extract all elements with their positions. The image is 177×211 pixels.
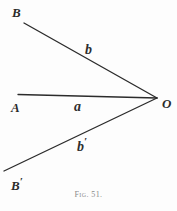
segment-label-b: b [85, 43, 92, 57]
point-label-O: O [162, 97, 171, 110]
segment-label-b-prime-mark: ′ [84, 135, 87, 147]
segment-label-a: a [74, 100, 81, 114]
angle-diagram-svg [0, 0, 177, 211]
segment-label-b-prime-letter: b [77, 139, 84, 154]
point-label-A: A [11, 101, 20, 114]
point-label-B: B [12, 6, 21, 19]
figure-caption: Fig. 51. [0, 190, 177, 199]
segment-label-b-prime: b′ [77, 136, 87, 154]
figure-container: B A B′ O b a b′ Fig. 51. [0, 0, 177, 211]
segment-BO [24, 23, 157, 98]
segment-AO [18, 95, 157, 99]
point-label-B-prime-mark: ′ [20, 175, 23, 187]
